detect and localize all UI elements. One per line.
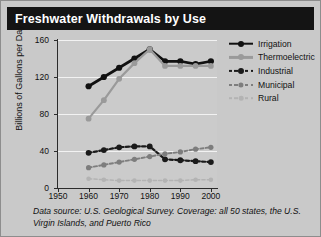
- y-tick-label: 40: [23, 147, 49, 155]
- x-tick-label: 1980: [135, 192, 165, 201]
- x-tick-mark: [58, 189, 59, 192]
- data-point: [132, 143, 138, 149]
- chart-title-bar: Freshwater Withdrawals by Use: [7, 7, 314, 30]
- data-point: [193, 147, 198, 152]
- y-tick-mark: [54, 77, 58, 78]
- data-point: [117, 160, 122, 165]
- data-point: [86, 150, 92, 156]
- legend-item-rural[interactable]: Rural: [229, 91, 319, 105]
- data-point: [102, 177, 107, 182]
- data-point: [132, 60, 138, 66]
- data-point: [147, 154, 152, 159]
- y-tick-mark: [54, 40, 58, 41]
- data-point: [86, 116, 92, 122]
- data-point: [101, 74, 107, 80]
- y-tick-label: 120: [23, 73, 49, 81]
- y-tick-label: 160: [23, 36, 49, 44]
- data-point: [178, 149, 183, 154]
- data-point: [193, 63, 199, 69]
- x-tick-mark: [211, 189, 212, 192]
- x-tick-label: 1960: [74, 192, 104, 201]
- x-tick-mark: [150, 189, 151, 192]
- legend-label: Rural: [258, 93, 279, 103]
- x-tick-mark: [119, 189, 120, 192]
- x-tick-label: 1990: [165, 192, 195, 201]
- legend-item-municipal[interactable]: Municipal: [229, 78, 319, 92]
- legend-label: Irrigation: [258, 39, 291, 49]
- legend-label: Municipal: [258, 80, 294, 90]
- series-line-thermoelectric: [89, 49, 211, 118]
- data-point: [132, 157, 137, 162]
- data-point: [85, 83, 91, 89]
- x-tick-mark: [89, 189, 90, 192]
- data-point: [208, 145, 213, 150]
- data-point: [208, 63, 214, 69]
- data-point: [116, 65, 122, 71]
- data-point: [178, 178, 183, 183]
- legend-swatch-icon: [229, 38, 253, 49]
- legend-swatch-icon: [229, 65, 253, 76]
- data-point: [147, 143, 153, 149]
- y-tick-mark: [54, 151, 58, 152]
- legend-swatch-icon: [229, 52, 253, 63]
- data-point: [177, 63, 183, 69]
- data-point: [117, 178, 122, 183]
- chart-caption: Data source: U.S. Geological Survey. Cov…: [33, 206, 315, 229]
- data-point: [162, 156, 168, 162]
- data-point: [116, 76, 122, 82]
- x-tick-mark: [180, 189, 181, 192]
- x-tick-label: 1970: [104, 192, 134, 201]
- data-point: [208, 159, 214, 165]
- data-point: [101, 97, 107, 103]
- legend-swatch-icon: [229, 79, 253, 90]
- data-point: [177, 157, 183, 163]
- legend-item-irrigation[interactable]: Irrigation: [229, 37, 319, 51]
- y-tick-label: 0: [23, 184, 49, 192]
- x-tick-label: 2000: [196, 192, 226, 201]
- x-tick-label: 1950: [43, 192, 73, 201]
- page-title: Freshwater Withdrawals by Use: [7, 12, 206, 26]
- data-point: [132, 178, 137, 183]
- data-point: [86, 176, 91, 181]
- data-point: [147, 178, 152, 183]
- data-point: [193, 177, 198, 182]
- chart-legend: IrrigationThermoelectricIndustrialMunici…: [229, 37, 319, 105]
- data-point: [101, 162, 106, 167]
- series-line-irrigation: [89, 49, 211, 86]
- data-point: [101, 147, 107, 153]
- data-point: [147, 46, 153, 52]
- y-tick-mark: [54, 114, 58, 115]
- data-point: [86, 165, 91, 170]
- data-point: [209, 177, 214, 182]
- data-point: [162, 63, 168, 69]
- legend-item-thermoelectric[interactable]: Thermoelectric: [229, 51, 319, 65]
- legend-label: Industrial: [258, 66, 293, 76]
- data-point: [162, 151, 167, 156]
- series-layer: [58, 40, 219, 190]
- data-point: [116, 144, 122, 150]
- data-point: [193, 158, 199, 164]
- legend-swatch-icon: [229, 93, 253, 104]
- chart-figure: Freshwater Withdrawals by Use Billions o…: [0, 0, 321, 237]
- legend-item-industrial[interactable]: Industrial: [229, 64, 319, 78]
- y-tick-label: 80: [23, 110, 49, 118]
- legend-label: Thermoelectric: [258, 52, 315, 62]
- data-point: [163, 178, 168, 183]
